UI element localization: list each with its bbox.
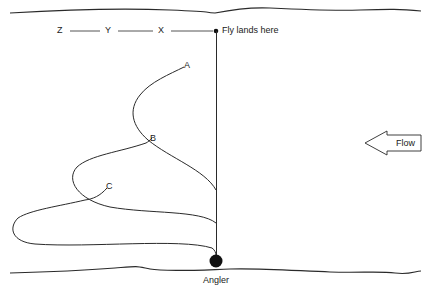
line-curve-a <box>133 67 216 190</box>
line-curve-b <box>73 138 216 223</box>
label-c: C <box>106 182 113 191</box>
angler-dot <box>210 255 223 268</box>
label-b: B <box>150 134 156 143</box>
flow-label: Flow <box>396 139 415 148</box>
label-z: Z <box>57 26 63 35</box>
near-bank-line <box>10 267 421 274</box>
label-a: A <box>184 61 190 70</box>
label-x: X <box>158 26 164 35</box>
far-bank-line <box>10 8 421 13</box>
fly-lands-label: Fly lands here <box>222 26 279 35</box>
label-y: Y <box>105 26 111 35</box>
diagram-canvas <box>0 0 431 289</box>
angler-label: Angler <box>203 276 229 285</box>
line-curve-c <box>13 188 216 256</box>
